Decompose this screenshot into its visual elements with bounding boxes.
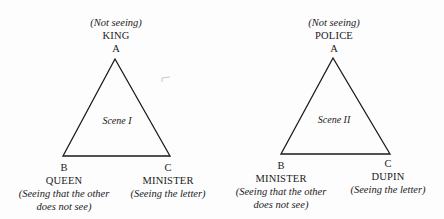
scene-1-b-role: QUEEN (46, 175, 83, 186)
scene-1-b-letter: B (60, 162, 67, 173)
scene-1-a-role: KING (102, 30, 129, 41)
scene-1-b-note-line2: does not see) (37, 201, 92, 212)
scan-artifact-mark (162, 77, 170, 82)
scene-1-c-letter: C (164, 162, 171, 173)
scene-2-c-role: DUPIN (371, 171, 404, 182)
scene-2-b-note-line1: (Seeing that the other (236, 186, 327, 197)
scene-2-b-letter: B (277, 160, 284, 171)
scene-2-triangle (281, 58, 390, 154)
scene-1-a-note: (Not seeing) (90, 17, 142, 28)
scene-1-title: Scene I (102, 115, 131, 126)
scene-2-c-letter: C (384, 158, 391, 169)
scene-2-title: Scene II (318, 114, 350, 125)
two-scene-triangle-diagram: (Not seeing) KING A Scene I B QUEEN (See… (0, 0, 444, 219)
scene-2-c-note: (Seeing the letter) (350, 184, 425, 195)
scene-2-b-note-line2: does not see) (254, 199, 309, 210)
scene-1-triangle (63, 59, 170, 156)
scene-1-a-letter: A (112, 43, 120, 54)
scene-2-a-role: POLICE (315, 30, 353, 41)
scene-1-b-note-line1: (Seeing that the other (19, 188, 110, 199)
scene-2-b-role: MINISTER (255, 173, 306, 184)
scene-2-a-note: (Not seeing) (308, 17, 360, 28)
scene-1-c-note: (Seeing the letter) (130, 188, 205, 199)
scene-1-c-role: MINISTER (142, 175, 193, 186)
scene-2-a-letter: A (330, 43, 338, 54)
